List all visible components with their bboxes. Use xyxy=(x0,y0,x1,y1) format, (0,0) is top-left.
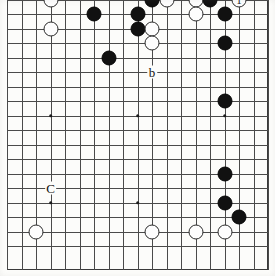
grid-line-horizontal xyxy=(7,246,268,247)
grid-line-vertical xyxy=(167,0,168,270)
grid-line-vertical xyxy=(65,0,66,270)
stone-black xyxy=(130,21,145,36)
grid-line-vertical xyxy=(138,0,139,270)
grid-line-vertical xyxy=(123,0,124,270)
star-point xyxy=(136,201,140,205)
stone-white xyxy=(145,224,160,239)
grid-line-vertical xyxy=(254,0,255,270)
grid-line-vertical xyxy=(80,0,81,270)
point-label-C: C xyxy=(45,182,57,195)
go-board-diagram: 1 abC xyxy=(0,0,275,276)
point-label-b: b xyxy=(147,66,157,79)
stone-white xyxy=(217,224,232,239)
stone-white xyxy=(29,224,44,239)
stone-white xyxy=(188,224,203,239)
stone-black xyxy=(217,36,232,51)
stone-black xyxy=(217,195,232,210)
stone-black xyxy=(101,50,116,65)
grid-line-horizontal xyxy=(7,58,268,59)
stone-white xyxy=(43,21,58,36)
grid-line-vertical xyxy=(268,0,269,270)
stone-move-number: 1 xyxy=(233,0,246,6)
grid-line-vertical xyxy=(109,0,110,270)
grid-line-horizontal xyxy=(7,72,268,73)
grid-line-horizontal xyxy=(7,217,268,218)
grid-line-horizontal xyxy=(7,87,268,88)
grid-line-vertical xyxy=(181,0,182,270)
star-point xyxy=(49,114,53,118)
grid-line-vertical xyxy=(210,0,211,270)
stone-white-numbered: 1 xyxy=(232,0,247,7)
stone-black xyxy=(217,94,232,109)
star-point xyxy=(49,201,53,205)
star-point xyxy=(136,114,140,118)
grid-line-vertical xyxy=(7,0,8,270)
grid-line-vertical xyxy=(51,0,52,270)
grid-line-horizontal xyxy=(7,159,268,160)
stone-white xyxy=(145,36,160,51)
grid-line-horizontal xyxy=(7,130,268,131)
star-point xyxy=(223,114,227,118)
stone-white xyxy=(188,7,203,22)
stone-black xyxy=(217,7,232,22)
grid-line-vertical xyxy=(94,0,95,270)
stone-black xyxy=(130,7,145,22)
grid-line-vertical xyxy=(239,0,240,270)
stone-black xyxy=(87,7,102,22)
stone-white xyxy=(145,21,160,36)
stone-black xyxy=(232,210,247,225)
stone-black xyxy=(217,166,232,181)
grid-line-horizontal xyxy=(7,145,268,146)
grid-line-vertical xyxy=(22,0,23,270)
